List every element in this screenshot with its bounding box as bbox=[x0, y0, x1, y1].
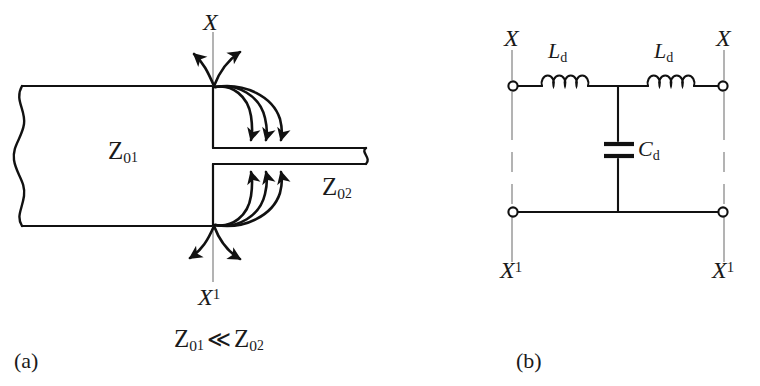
label-terminal-bottom-right: X1 bbox=[712, 258, 734, 282]
diverging-arrow-bottom-right bbox=[214, 226, 240, 259]
diverging-arrow-top-right bbox=[214, 52, 240, 86]
much-less-than-operator: ≪ bbox=[204, 327, 234, 352]
fringing-field-top bbox=[215, 86, 282, 140]
terminal-top-right-node bbox=[718, 81, 727, 90]
label-impedance-wide: Z01 bbox=[108, 138, 138, 166]
figure-root: X X1 Z01 Z02 Z01≪Z02 (a) X X X1 X1 Ld Ld… bbox=[0, 0, 760, 386]
break-line-right bbox=[364, 148, 367, 164]
label-terminal-top-right: X bbox=[716, 26, 731, 50]
label-inductor-right: Ld bbox=[654, 40, 673, 64]
inductor-left-coil bbox=[542, 76, 589, 86]
label-terminal-bottom-left: X1 bbox=[500, 258, 522, 282]
label-reference-plane-top-a: X bbox=[203, 10, 218, 34]
label-capacitor: Cd bbox=[638, 138, 660, 162]
label-impedance-condition: Z01≪Z02 bbox=[174, 326, 264, 354]
figure-canvas bbox=[0, 0, 760, 386]
label-impedance-narrow: Z02 bbox=[322, 174, 352, 202]
caption-panel-b: (b) bbox=[516, 350, 542, 372]
narrow-guide-outline bbox=[213, 148, 368, 164]
label-inductor-left: Ld bbox=[548, 40, 567, 64]
fringing-field-bottom bbox=[215, 172, 282, 226]
terminal-bottom-right-node bbox=[718, 207, 727, 216]
diverging-arrow-top-left bbox=[194, 54, 214, 86]
terminal-top-left-node bbox=[508, 81, 517, 90]
label-terminal-top-left: X bbox=[504, 26, 519, 50]
capacitor-plates bbox=[604, 144, 634, 156]
terminal-bottom-left-node bbox=[508, 207, 517, 216]
break-line-left bbox=[14, 86, 25, 226]
inductor-right-coil bbox=[648, 76, 695, 86]
panel-a-geometry bbox=[14, 32, 368, 282]
label-reference-plane-bottom-a: X1 bbox=[198, 285, 220, 309]
diverging-arrows-top bbox=[194, 52, 240, 86]
field-line-bottom-1 bbox=[215, 172, 252, 225]
diverging-arrows-bottom bbox=[190, 226, 240, 259]
panel-b-geometry bbox=[508, 50, 727, 262]
diverging-arrow-bottom-left bbox=[190, 226, 214, 258]
field-line-top-1 bbox=[215, 87, 252, 140]
caption-panel-a: (a) bbox=[14, 350, 38, 372]
